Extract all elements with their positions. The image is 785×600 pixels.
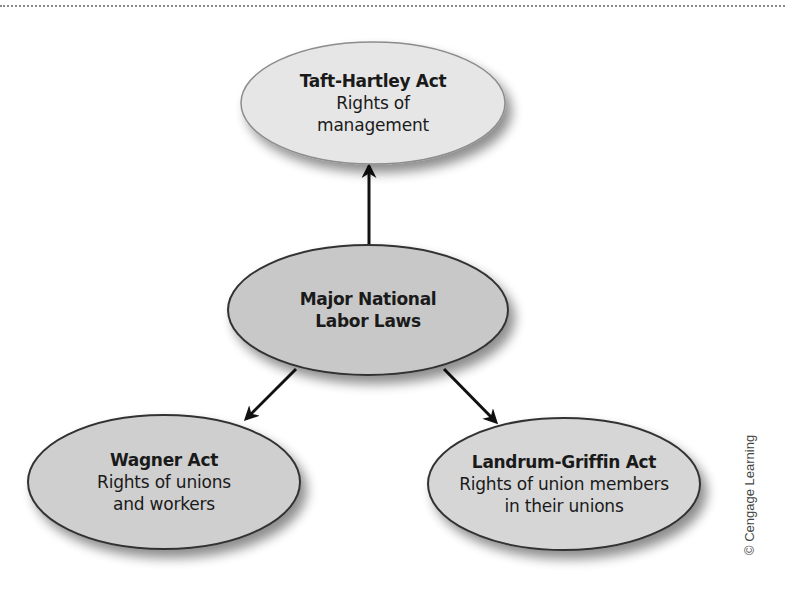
node-desc: in their unions xyxy=(504,495,623,517)
node-title: Wagner Act xyxy=(110,449,218,471)
node-center: Major National Labor Laws xyxy=(228,245,508,375)
node-title: Taft-Hartley Act xyxy=(300,70,447,92)
node-desc: and workers xyxy=(113,493,215,515)
node-wagner: Wagner Act Rights of unions and workers xyxy=(28,415,300,549)
node-taft-hartley: Taft-Hartley Act Rights of management xyxy=(243,45,503,161)
node-desc: Rights of unions xyxy=(97,471,231,493)
center-title: Labor Laws xyxy=(315,310,421,332)
node-landrum-griffin: Landrum-Griffin Act Rights of union memb… xyxy=(428,418,700,550)
node-title: Landrum-Griffin Act xyxy=(472,451,656,473)
arrow-to-wagner xyxy=(246,369,296,419)
node-desc: management xyxy=(317,114,429,136)
arrow-to-landrum-griffin xyxy=(444,369,496,422)
copyright-credit: © Cengage Learning xyxy=(742,435,757,555)
node-desc: Rights of xyxy=(336,92,410,114)
center-title: Major National xyxy=(300,288,437,310)
node-desc: Rights of union members xyxy=(459,473,669,495)
